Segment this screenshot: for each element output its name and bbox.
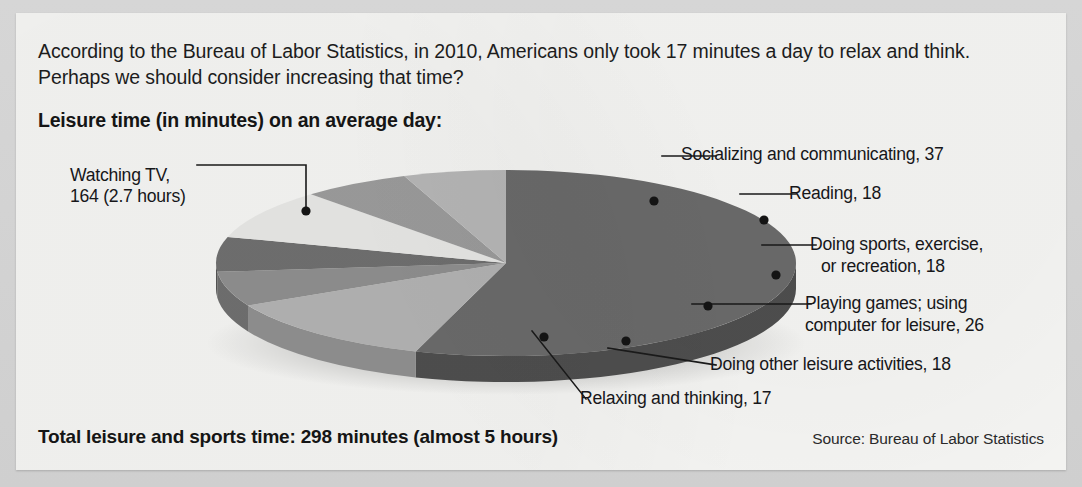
label-watching-tv-line1: Watching TV, [70,165,170,187]
label-watching-tv-line2: 164 (2.7 hours) [70,186,186,208]
total-line: Total leisure and sports time: 298 minut… [38,426,558,448]
label-reading: Reading, 18 [789,183,881,205]
label-sports-line1: Doing sports, exercise, [810,234,983,256]
screenshot-frame: According to the Bureau of Labor Statist… [0,0,1082,487]
pie-tops [216,170,796,356]
label-relaxing: Relaxing and thinking, 17 [580,388,771,410]
label-games-line1: Playing games; using [805,293,967,315]
label-games-line2: computer for leisure, 26 [805,315,984,337]
infographic-card: According to the Bureau of Labor Statist… [16,13,1066,470]
label-sports-line2: or recreation, 18 [821,256,945,278]
label-socializing: Socializing and communicating, 37 [681,144,944,166]
source-line: Source: Bureau of Labor Statistics [812,430,1044,448]
label-other-leisure: Doing other leisure activities, 18 [710,354,951,376]
